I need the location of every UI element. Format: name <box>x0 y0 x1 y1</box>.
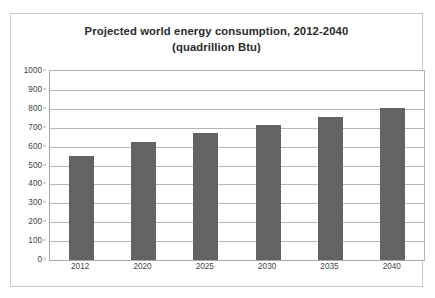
bar-series <box>50 71 424 260</box>
plot-area <box>49 70 425 261</box>
y-axis-tick-mark <box>43 126 46 127</box>
x-axis-tick-label: 2020 <box>130 262 155 271</box>
y-axis-tick-mark <box>43 202 46 203</box>
y-axis-tick-label: 300 <box>28 198 42 207</box>
y-axis-tick-label: 900 <box>28 84 42 93</box>
y-axis-tick-mark <box>43 145 46 146</box>
y-axis-tick-label: 400 <box>28 179 42 188</box>
y-axis: 01002003004005006007008009001000 <box>11 70 46 259</box>
y-axis-tick-label: 100 <box>28 236 42 245</box>
y-axis-tick-mark <box>43 221 46 222</box>
y-axis-tick-mark <box>43 259 46 260</box>
y-axis-tick-label: 200 <box>28 217 42 226</box>
y-axis-tick-mark <box>43 164 46 165</box>
y-axis-tick-mark <box>43 88 46 89</box>
x-axis: 201220202025203020352040 <box>49 262 423 271</box>
y-axis-tick-mark <box>43 240 46 241</box>
bar-2030 <box>256 125 281 260</box>
bar-2035 <box>318 117 343 260</box>
chart-frame: Projected world energy consumption, 2012… <box>10 13 423 287</box>
plot-wrapper: 01002003004005006007008009001000 2012202… <box>11 14 424 288</box>
y-axis-tick-label: 1000 <box>24 66 42 75</box>
x-axis-tick-label: 2025 <box>192 262 217 271</box>
x-axis-tick-label: 2035 <box>317 262 342 271</box>
x-axis-tick-label: 2030 <box>255 262 280 271</box>
bar-2040 <box>380 108 405 260</box>
x-axis-tick-label: 2012 <box>68 262 93 271</box>
bar-2012 <box>69 156 94 260</box>
y-axis-tick-label: 700 <box>28 122 42 131</box>
y-axis-tick-mark <box>43 107 46 108</box>
y-axis-tick-label: 500 <box>28 160 42 169</box>
y-axis-tick-mark <box>43 183 46 184</box>
y-axis-tick-label: 800 <box>28 103 42 112</box>
y-axis-tick-mark <box>43 70 46 71</box>
x-axis-tick-label: 2040 <box>379 262 404 271</box>
y-axis-tick-label: 600 <box>28 141 42 150</box>
y-axis-tick-label: 0 <box>37 255 42 264</box>
bar-2020 <box>131 142 156 260</box>
bar-2025 <box>193 133 218 260</box>
